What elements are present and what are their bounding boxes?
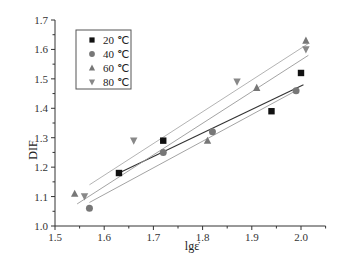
circle-marker: [209, 128, 216, 135]
triangle-down-marker: [81, 193, 88, 200]
y-tick-label: 1.7: [34, 14, 48, 26]
circle-marker: [160, 149, 167, 156]
y-tick-label: 1.5: [34, 73, 48, 85]
triangle-up-marker: [71, 190, 78, 197]
y-axis-label: DIF: [26, 140, 40, 160]
x-tick-label: 1.9: [245, 231, 259, 243]
triangle-down-marker: [302, 46, 309, 53]
circle-marker: [89, 51, 95, 57]
circle-marker: [86, 205, 93, 212]
x-tick-label: 1.5: [48, 231, 62, 243]
triangle-down-marker: [233, 79, 240, 86]
x-tick-label: 1.6: [97, 231, 111, 243]
legend-label: 40 ℃: [103, 48, 129, 60]
y-tick-label: 1.1: [34, 191, 48, 203]
circle-marker: [293, 87, 300, 94]
square-marker: [116, 170, 122, 176]
x-tick-label: 2.0: [294, 231, 308, 243]
y-tick-label: 1.6: [34, 43, 48, 55]
square-marker: [298, 70, 304, 76]
scatter-chart: 1.51.61.71.81.92.01.01.11.21.31.41.51.61…: [0, 0, 345, 271]
square-marker: [89, 37, 94, 42]
y-tick-label: 1.0: [34, 220, 48, 232]
y-tick-label: 1.4: [34, 102, 48, 114]
triangle-down-marker: [130, 137, 137, 144]
triangle-up-marker: [302, 37, 309, 44]
legend: 20 ℃40 ℃60 ℃80 ℃: [76, 30, 131, 89]
square-marker: [268, 108, 274, 114]
x-tick-label: 1.7: [147, 231, 161, 243]
legend-label: 60 ℃: [103, 62, 129, 74]
y-tick-label: 1.2: [34, 161, 48, 173]
fit-line: [89, 91, 296, 203]
square-marker: [160, 137, 166, 143]
x-axis-label: lgε̇: [185, 239, 200, 253]
legend-label: 20 ℃: [103, 34, 129, 46]
legend-label: 80 ℃: [103, 76, 129, 88]
